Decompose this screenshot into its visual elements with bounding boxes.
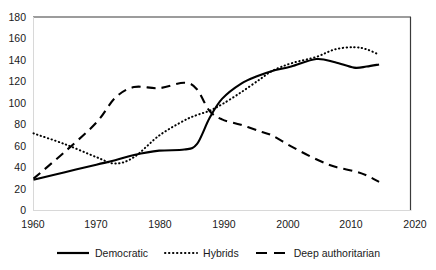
series-line-hybrids <box>34 47 380 163</box>
chart-legend: Democratic Hybrids Deep authoritarian <box>0 243 436 263</box>
legend-label-democratic: Democratic <box>95 247 148 259</box>
legend-label-deep-authoritarian: Deep authoritarian <box>294 247 380 259</box>
solid-line-swatch <box>56 248 90 258</box>
legend-item-deep-authoritarian: Deep authoritarian <box>255 247 380 259</box>
line-chart: 180 160 140 120 100 80 60 40 20 0 1960 1… <box>0 0 436 270</box>
legend-item-hybrids: Hybrids <box>164 247 239 259</box>
legend-label-hybrids: Hybrids <box>203 247 239 259</box>
plot-area <box>0 0 436 270</box>
dotted-line-swatch <box>164 248 198 258</box>
legend-item-democratic: Democratic <box>56 247 148 259</box>
series-line-democratic <box>34 59 380 180</box>
dashed-line-swatch <box>255 248 289 258</box>
